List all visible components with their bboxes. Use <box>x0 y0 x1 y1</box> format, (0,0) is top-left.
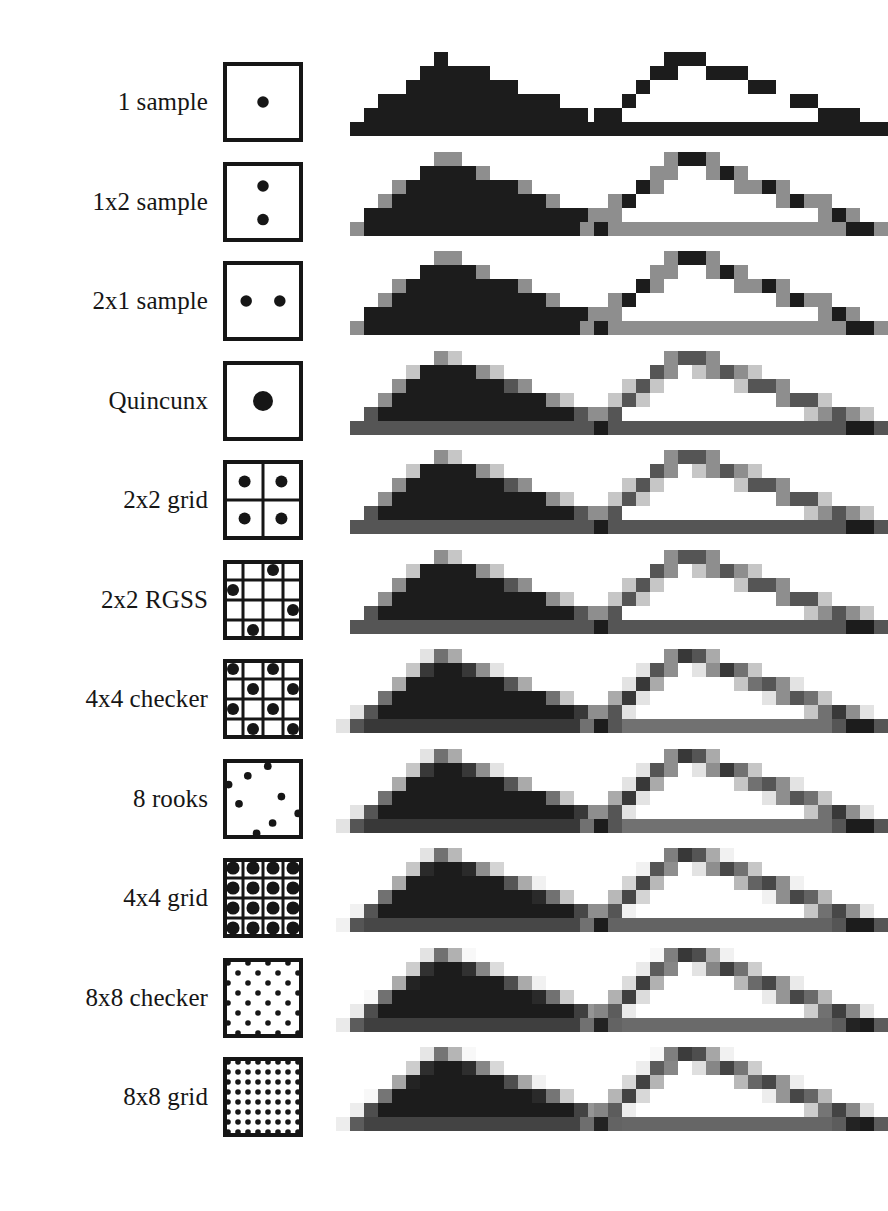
outline-triangle-render <box>580 1047 856 1147</box>
pattern-row: 2x2 RGSS <box>0 550 864 650</box>
sample-pattern-diagram <box>223 361 303 441</box>
pattern-row: 8 rooks <box>0 749 864 849</box>
pattern-row: 4x4 grid <box>0 848 864 948</box>
pattern-row: 8x8 grid <box>0 1047 864 1147</box>
pattern-row: 1 sample <box>0 52 864 152</box>
pattern-label: 4x4 grid <box>10 848 208 948</box>
pattern-row: 4x4 checker <box>0 649 864 749</box>
sample-pattern-diagram <box>223 659 303 739</box>
sample-pattern-diagram <box>223 958 303 1038</box>
pattern-row: 2x2 grid <box>0 450 864 550</box>
sample-pattern-diagram <box>223 460 303 540</box>
sample-pattern-diagram <box>223 759 303 839</box>
outline-triangle-render <box>580 152 856 252</box>
sample-pattern-diagram <box>223 62 303 142</box>
outline-triangle-render <box>580 52 856 152</box>
pattern-row: 8x8 checker <box>0 948 864 1048</box>
pattern-label: 8x8 checker <box>10 948 208 1048</box>
sample-pattern-diagram <box>223 560 303 640</box>
outline-triangle-render <box>580 848 856 948</box>
sample-pattern-diagram <box>223 162 303 242</box>
pattern-row: 2x1 sample <box>0 251 864 351</box>
pattern-row: 1x2 sample <box>0 152 864 252</box>
pattern-label: 4x4 checker <box>10 649 208 749</box>
outline-triangle-render <box>580 948 856 1048</box>
outline-triangle-render <box>580 450 856 550</box>
pattern-label: 2x2 RGSS <box>10 550 208 650</box>
outline-triangle-render <box>580 351 856 451</box>
sample-pattern-diagram <box>223 1057 303 1137</box>
outline-triangle-render <box>580 749 856 849</box>
pattern-label: 1 sample <box>10 52 208 152</box>
sample-pattern-diagram <box>223 858 303 938</box>
pattern-label: Quincunx <box>10 351 208 451</box>
pattern-label: 1x2 sample <box>10 152 208 252</box>
outline-triangle-render <box>580 251 856 351</box>
pattern-row: Quincunx <box>0 351 864 451</box>
outline-triangle-render <box>580 550 856 650</box>
pattern-label: 2x2 grid <box>10 450 208 550</box>
sample-pattern-diagram <box>223 261 303 341</box>
pattern-label: 8 rooks <box>10 749 208 849</box>
outline-triangle-render <box>580 649 856 749</box>
pattern-label: 2x1 sample <box>10 251 208 351</box>
pattern-label: 8x8 grid <box>10 1047 208 1147</box>
